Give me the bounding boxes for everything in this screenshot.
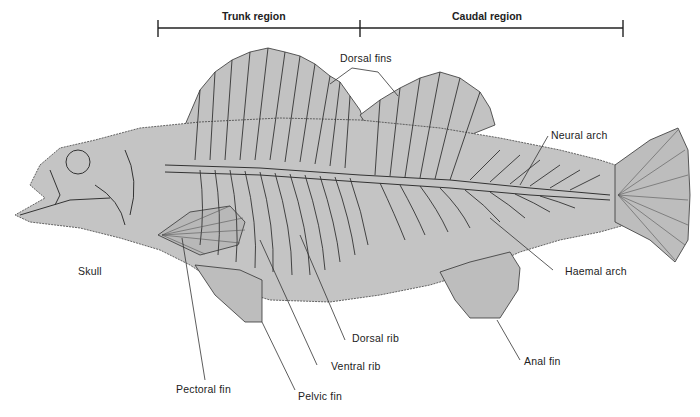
neural-arch-label: Neural arch [551,129,607,141]
pectoral-fin-label: Pectoral fin [176,383,231,395]
fish-skeleton-diagram: Trunk region Caudal region Dorsal fins N… [0,0,700,417]
dorsal-rib-label: Dorsal rib [352,332,399,344]
region-scale-bar [158,20,623,37]
skull-label: Skull [78,265,102,277]
ventral-rib-label: Ventral rib [331,360,380,372]
spiny-dorsal-fin [185,48,365,125]
trunk-region-label: Trunk region [222,10,286,22]
caudal-fin [615,128,690,262]
dorsal-fins-label: Dorsal fins [340,52,392,64]
haemal-arch-label: Haemal arch [565,265,627,277]
caudal-region-label: Caudal region [452,10,522,22]
anal-fin-label: Anal fin [524,355,561,367]
fish-body [15,118,625,302]
pelvic-fin-label: Pelvic fin [298,390,342,402]
